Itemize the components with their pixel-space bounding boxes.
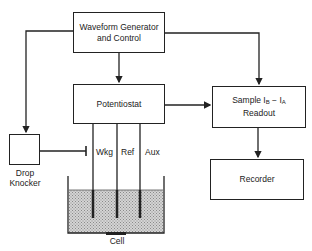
- cell-label: Cell: [104, 236, 130, 246]
- drop-knocker-label: DropKnocker: [0, 168, 50, 188]
- recorder-block: Recorder: [210, 159, 304, 200]
- drop-knocker-block: [9, 134, 40, 165]
- waveform-line1: Waveform Generator: [79, 22, 158, 32]
- recorder-label: Recorder: [240, 174, 275, 185]
- sample-sub-a: A: [282, 99, 286, 105]
- sample-line2: Readout: [243, 108, 275, 118]
- arrow-waveform-to-sample: [165, 33, 259, 84]
- sample-readout-block: Sample IB − IAReadout: [212, 86, 306, 128]
- waveform-line2: and Control: [97, 33, 141, 43]
- waveform-generator-block: Waveform Generatorand Control: [73, 12, 165, 53]
- aux-label: Aux: [145, 147, 160, 157]
- potentiostat-block: Potentiostat: [73, 84, 165, 124]
- ref-label: Ref: [121, 147, 134, 157]
- sample-minus: − I: [270, 95, 282, 105]
- wkg-label: Wkg: [96, 147, 113, 157]
- arrow-waveform-to-drop-knocker: [26, 31, 73, 132]
- potentiostat-label: Potentiostat: [97, 99, 142, 110]
- sample-prefix: Sample I: [232, 95, 266, 105]
